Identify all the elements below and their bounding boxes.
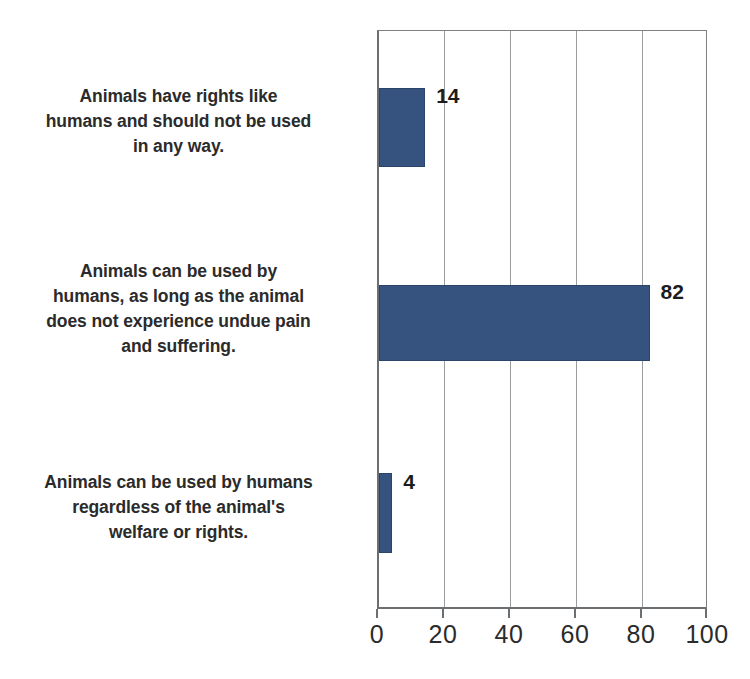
tick-label-0: 0 [370, 620, 384, 649]
bar-category-0 [379, 88, 425, 167]
plot-area [377, 30, 707, 609]
tick-mark-20 [442, 609, 444, 618]
bar-category-1 [379, 285, 650, 361]
category-label-1: Animals can be used by humans, as long a… [0, 259, 357, 359]
tick-mark-60 [574, 609, 576, 618]
bar-chart: Animals have rights like humans and shou… [0, 0, 750, 679]
tick-mark-100 [705, 609, 707, 618]
tick-label-80: 80 [627, 620, 656, 649]
value-label-2: 4 [403, 470, 415, 494]
bar-category-2 [379, 473, 392, 553]
value-label-0: 14 [436, 84, 459, 108]
tick-label-20: 20 [429, 620, 458, 649]
category-label-0: Animals have rights like humans and shou… [0, 84, 357, 159]
tick-mark-80 [640, 609, 642, 618]
tick-label-60: 60 [561, 620, 590, 649]
value-label-1: 82 [661, 280, 684, 304]
tick-label-40: 40 [495, 620, 524, 649]
tick-mark-40 [508, 609, 510, 618]
tick-label-100: 100 [685, 620, 728, 649]
tick-mark-0 [376, 609, 378, 618]
category-label-2: Animals can be used by humans regardless… [0, 470, 357, 545]
